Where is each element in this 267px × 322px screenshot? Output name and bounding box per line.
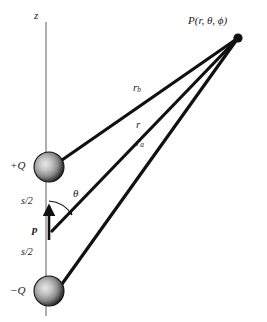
positive-charge-label: +Q xyxy=(10,160,25,171)
negative-charge-sphere xyxy=(34,276,64,306)
r-label: r xyxy=(136,119,140,130)
field-point-dot xyxy=(233,33,242,42)
theta-angle-label: θ xyxy=(73,188,78,199)
dipole-diagram-canvas xyxy=(0,0,267,322)
z-axis-label: z xyxy=(34,10,38,21)
r-line xyxy=(52,38,238,231)
field-point-label: P(r, θ, ϕ) xyxy=(188,15,227,26)
r-b-label: rb xyxy=(133,82,141,95)
r-a-line xyxy=(62,38,238,284)
r-a-label-subscript: a xyxy=(140,141,144,149)
r-b-label-subscript: b xyxy=(137,86,141,94)
r-b-line xyxy=(62,38,238,160)
r-a-label: ra xyxy=(136,137,144,150)
dipole-figure: z P(r, θ, ϕ) rb r ra +Q s/2 θ p s/2 −Q xyxy=(0,0,267,322)
positive-charge-sphere xyxy=(34,152,64,182)
negative-charge-label: −Q xyxy=(10,285,25,296)
dipole-moment-label: p xyxy=(32,224,38,235)
r-label-base: r xyxy=(136,118,140,130)
s-over-2-upper-label: s/2 xyxy=(21,196,33,206)
s-over-2-lower-label: s/2 xyxy=(21,247,33,257)
